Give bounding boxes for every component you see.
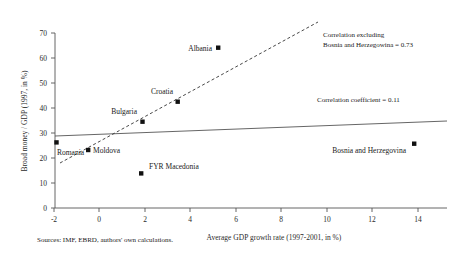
data-label-bulgaria: Bulgaria	[111, 107, 137, 116]
x-tick-label-10: 10	[323, 215, 331, 224]
data-label-moldova: Moldova	[93, 146, 121, 155]
data-point-albania[interactable]	[216, 46, 220, 50]
data-point-romania[interactable]	[54, 140, 58, 144]
y-tick-label-70: 70	[40, 29, 48, 38]
data-label-bosnia: Bosnia and Herzegovina	[332, 146, 406, 155]
x-tick-label-0: 0	[97, 215, 101, 224]
source-note: Sources: IMF, EBRD, authors' own calcula…	[37, 236, 173, 244]
x-tick-label-8: 8	[279, 215, 283, 224]
annotation-correlation-coefficient: Correlation coefficient = 0.11	[317, 96, 400, 104]
y-tick-label-10: 10	[40, 179, 48, 188]
y-tick-label-0: 0	[43, 204, 47, 213]
y-axis-title: Broad money / GDP (1997, in %)	[20, 70, 29, 171]
x-tick-label-14: 14	[414, 215, 422, 224]
y-tick-label-30: 30	[40, 129, 48, 138]
scatter-chart-figure: 0 10 20 30 40 50 60 70 Broad money / GDP…	[0, 0, 457, 254]
x-axis-title: Average GDP growth rate (1997-2001, in %…	[207, 233, 342, 242]
annotation-excluding-line1: Correlation excluding	[323, 31, 385, 39]
x-tick-label-6: 6	[234, 215, 238, 224]
data-label-romania: Romania	[57, 148, 85, 157]
annotation-excluding-line2: Bosnia and Herzegowina = 0.73	[323, 41, 414, 49]
y-tick-label-40: 40	[40, 104, 48, 113]
data-point-labels: Romania Moldova Bulgaria FYR Macedonia C…	[57, 44, 407, 171]
y-tick-label-60: 60	[40, 54, 48, 63]
x-tick-label-4: 4	[188, 215, 192, 224]
x-tick-label-2: 2	[143, 215, 147, 224]
data-point-macedonia[interactable]	[139, 171, 143, 175]
y-axis: 0 10 20 30 40 50 60 70 Broad money / GDP…	[20, 29, 55, 213]
data-label-albania: Albania	[188, 44, 212, 53]
data-point-bosnia[interactable]	[412, 142, 416, 146]
y-tick-label-20: 20	[40, 154, 48, 163]
x-tick-label-12: 12	[368, 215, 376, 224]
x-tick-label-neg2: -2	[51, 215, 57, 224]
data-point-moldova[interactable]	[86, 148, 90, 152]
data-points	[54, 46, 416, 176]
data-label-croatia: Croatia	[151, 87, 174, 96]
y-tick-label-50: 50	[40, 79, 48, 88]
dashed-trend-annotation: Correlation excluding Bosnia and Herzego…	[323, 31, 414, 49]
chart-svg: 0 10 20 30 40 50 60 70 Broad money / GDP…	[0, 0, 457, 254]
data-point-bulgaria[interactable]	[140, 120, 144, 124]
data-label-macedonia: FYR Macedonia	[149, 162, 199, 171]
data-point-croatia[interactable]	[176, 100, 180, 104]
